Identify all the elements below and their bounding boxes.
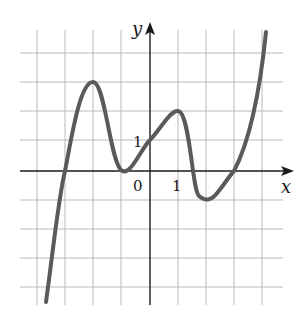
x-tick-one-label: 1 <box>172 177 182 195</box>
origin-label: 0 <box>133 177 143 195</box>
x-axis-label: x <box>281 176 291 197</box>
function-graph: y x 0 1 1 <box>0 0 308 320</box>
grid <box>20 30 283 305</box>
y-axis-label: y <box>131 18 143 39</box>
x-axis <box>20 166 294 176</box>
function-curve <box>46 32 266 302</box>
y-axis <box>145 22 155 305</box>
y-tick-one-label: 1 <box>133 133 143 151</box>
